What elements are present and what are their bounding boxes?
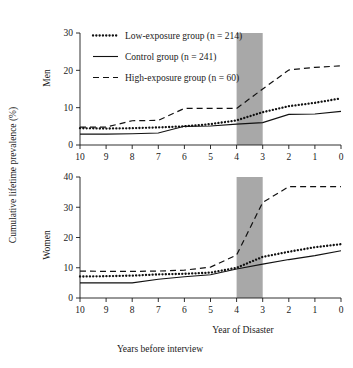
series-line-dotted — [80, 244, 341, 276]
x-tick-label: 5 — [208, 305, 213, 315]
panel-men-label: Men — [42, 69, 52, 87]
figure-container: Cumulative lifetime prevalence (%) Men 0… — [0, 0, 353, 368]
x-tick-label: 2 — [286, 152, 291, 162]
chart-svg: Cumulative lifetime prevalence (%) Men 0… — [0, 0, 353, 368]
disaster-shading-women — [237, 177, 263, 298]
x-tick-label: 2 — [286, 305, 291, 315]
x-tick-label: 1 — [313, 305, 318, 315]
y-tick-label: 0 — [68, 140, 73, 150]
x-tick-label: 8 — [130, 152, 135, 162]
x-tick-label: 4 — [234, 152, 239, 162]
x-tick-label: 10 — [75, 152, 85, 162]
x-tick-label: 3 — [260, 305, 265, 315]
x-tick-label: 9 — [104, 305, 109, 315]
series-women — [80, 187, 341, 283]
x-tick-label: 6 — [182, 305, 187, 315]
panel-women-label: Women — [42, 230, 52, 260]
y-tick-label: 20 — [64, 233, 74, 243]
disaster-shading-men — [237, 33, 263, 145]
tick-labels-women: 010203040109876543210 — [64, 172, 344, 315]
x-tick-label: 0 — [339, 152, 344, 162]
x-tick-label: 0 — [339, 305, 344, 315]
x-tick-label: 9 — [104, 152, 109, 162]
x-tick-label: 7 — [156, 152, 161, 162]
panel-men: Men 0102030109876543210 Low-exposure gro… — [42, 28, 344, 162]
legend-men: Low-exposure group (n = 214)Control grou… — [93, 31, 242, 84]
y-tick-label: 30 — [64, 28, 74, 38]
series-line-dashed — [80, 187, 341, 272]
x-tick-label: 3 — [260, 152, 265, 162]
x-axis-title-primary: Year of Disaster — [212, 325, 274, 335]
y-tick-label: 40 — [64, 172, 74, 182]
series-line-dotted — [80, 98, 341, 128]
x-tick-label: 5 — [208, 152, 213, 162]
y-tick-label: 30 — [64, 203, 74, 213]
y-axis-title: Cumulative lifetime prevalence (%) — [8, 107, 19, 243]
panel-women: Women 010203040109876543210 — [42, 172, 344, 315]
legend-label-high: High-exposure group (n = 60) — [125, 73, 239, 84]
x-tick-label: 6 — [182, 152, 187, 162]
axes-men — [76, 33, 341, 149]
x-tick-label: 8 — [130, 305, 135, 315]
y-tick-label: 20 — [64, 66, 74, 76]
x-tick-label: 10 — [75, 305, 85, 315]
legend-label-low: Low-exposure group (n = 214) — [125, 31, 242, 42]
x-tick-label: 7 — [156, 305, 161, 315]
y-tick-label: 10 — [64, 263, 74, 273]
y-tick-label: 0 — [68, 293, 73, 303]
x-tick-label: 4 — [234, 305, 239, 315]
x-axis-title-secondary: Years before interview — [117, 344, 203, 354]
x-tick-label: 1 — [313, 152, 318, 162]
y-tick-label: 10 — [64, 103, 74, 113]
series-line-solid — [80, 111, 341, 134]
tick-labels-men: 0102030109876543210 — [64, 28, 344, 162]
legend-label-control: Control group (n = 241) — [125, 52, 216, 63]
